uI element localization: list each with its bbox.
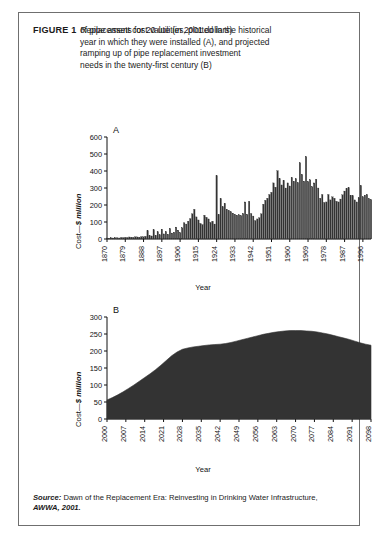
source-label: Source: — [33, 493, 61, 502]
svg-text:100: 100 — [90, 381, 102, 390]
svg-text:2021: 2021 — [157, 426, 166, 442]
figure-frame: FIGURE 1Replacement cost value (in 2001 … — [18, 12, 360, 526]
svg-text:2000: 2000 — [100, 426, 109, 442]
svg-text:2084: 2084 — [326, 426, 335, 442]
svg-text:1888: 1888 — [137, 246, 146, 262]
svg-text:1987: 1987 — [338, 246, 347, 262]
svg-text:2028: 2028 — [175, 426, 184, 442]
svg-text:1870: 1870 — [100, 246, 109, 262]
chart-panel-a: A Cost—$ million 01002003004005006001870… — [19, 125, 361, 297]
svg-text:2049: 2049 — [232, 426, 241, 442]
svg-text:2098: 2098 — [364, 426, 373, 442]
svg-text:2077: 2077 — [307, 426, 316, 442]
svg-text:200: 200 — [90, 201, 102, 210]
svg-text:1924: 1924 — [210, 246, 219, 262]
svg-text:2014: 2014 — [138, 426, 147, 442]
caption-line-2: of pipe assets for 20 utilities, plotted… — [80, 25, 349, 37]
svg-text:500: 500 — [90, 150, 102, 159]
caption-line-3: year in which they were installed (A), a… — [80, 37, 349, 49]
figure-label: FIGURE 1 — [33, 25, 77, 35]
svg-text:2070: 2070 — [289, 426, 298, 442]
panel-a-xlabel: Year — [103, 283, 303, 292]
svg-text:2042: 2042 — [213, 426, 222, 442]
svg-text:2063: 2063 — [270, 426, 279, 442]
svg-text:150: 150 — [90, 364, 102, 373]
svg-text:1996: 1996 — [356, 246, 365, 262]
svg-text:1951: 1951 — [264, 246, 273, 262]
svg-text:250: 250 — [90, 330, 102, 339]
source-reference: AWWA, 2001. — [33, 503, 81, 512]
svg-text:1969: 1969 — [301, 246, 310, 262]
source-text: Dawn of the Replacement Era: Reinvesting… — [61, 493, 317, 502]
svg-text:50: 50 — [94, 398, 102, 407]
svg-text:2091: 2091 — [345, 426, 354, 442]
svg-text:1879: 1879 — [118, 246, 127, 262]
svg-text:2035: 2035 — [194, 426, 203, 442]
svg-text:0: 0 — [98, 235, 102, 244]
svg-text:2056: 2056 — [251, 426, 260, 442]
svg-text:1897: 1897 — [155, 246, 164, 262]
panel-a-plot: 0100200300400500600187018791888189719061… — [77, 131, 377, 281]
panel-b-xlabel: Year — [103, 465, 303, 474]
svg-text:0: 0 — [98, 415, 102, 424]
svg-text:600: 600 — [90, 133, 102, 142]
svg-text:1960: 1960 — [283, 246, 292, 262]
svg-text:2007: 2007 — [119, 426, 128, 442]
svg-text:200: 200 — [90, 347, 102, 356]
svg-text:1906: 1906 — [173, 246, 182, 262]
source-note: Source: Dawn of the Replacement Era: Rei… — [33, 493, 343, 514]
svg-text:100: 100 — [90, 218, 102, 227]
svg-text:1915: 1915 — [191, 246, 200, 262]
svg-text:1978: 1978 — [319, 246, 328, 262]
svg-text:1942: 1942 — [246, 246, 255, 262]
caption-line-4: ramping up of pipe replacement investmen… — [80, 48, 349, 60]
figure-caption: FIGURE 1Replacement cost value (in 2001 … — [33, 25, 349, 71]
chart-panel-b: B Cost—$ million 05010015020025030020002… — [19, 305, 361, 485]
svg-text:300: 300 — [90, 184, 102, 193]
caption-body: of pipe assets for 20 utilities, plotted… — [80, 25, 349, 71]
svg-text:300: 300 — [90, 313, 102, 322]
svg-text:1933: 1933 — [228, 246, 237, 262]
panel-b-plot: 0501001502002503002000200720142021202820… — [77, 311, 377, 461]
svg-text:400: 400 — [90, 167, 102, 176]
caption-line-5: needs in the twenty-first century (B) — [80, 60, 349, 72]
